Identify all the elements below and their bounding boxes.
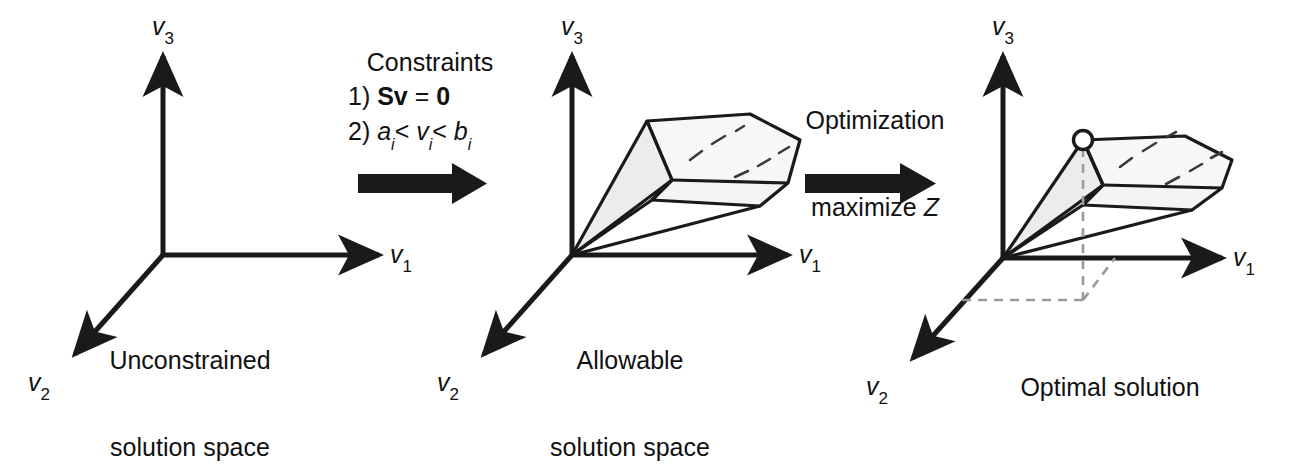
axis-label-v3-panel3: v3	[992, 12, 1014, 46]
constraint-2-flux: v	[416, 117, 429, 145]
transition-title-optimization: Optimization maximize Z	[760, 48, 990, 280]
caption-allowable: Allowable solution space	[490, 288, 770, 465]
axis-label-v2-panel2: v2	[437, 368, 459, 402]
caption-line-1: Allowable	[490, 346, 770, 375]
axis-label-v3-panel1: v3	[152, 12, 174, 46]
constraint-2-sub-v: i	[429, 136, 433, 153]
constraint-2-sub-b: i	[468, 136, 472, 153]
caption-line-2: solution space	[490, 433, 770, 462]
constraint-item-1: 1) Sv = 0	[348, 82, 450, 111]
constraint-2-lower-bound: a	[377, 117, 391, 145]
optimization-line-1: Optimization	[760, 106, 990, 135]
constraint-1-number: 1)	[348, 82, 370, 110]
axis-label-v1-panel1: v1	[390, 240, 412, 274]
caption-optimal: Optimal solution	[985, 315, 1235, 460]
caption-unconstrained: Unconstrained solution space	[40, 288, 340, 465]
constraint-1-matrix: Sv	[377, 82, 408, 110]
constraint-2-lt-1: <	[395, 117, 410, 145]
objective-symbol: Z	[924, 193, 939, 221]
optimization-verb: maximize	[811, 193, 917, 221]
constraint-2-sub-a: i	[391, 136, 395, 153]
constraint-1-equals: =	[415, 82, 430, 110]
transition-arrow-constraints	[358, 163, 487, 204]
caption-line-1: Unconstrained	[40, 346, 340, 375]
optimization-line-2: maximize Z	[760, 193, 990, 222]
transition-title-constraints: Constraints	[330, 48, 530, 77]
constraint-item-2: 2) ai< vi< bi	[348, 117, 471, 151]
axis-label-v3-panel2: v3	[561, 12, 583, 46]
constraint-2-number: 2)	[348, 117, 370, 145]
axis-label-v2-panel3: v2	[866, 372, 888, 406]
optimal-solution-point	[1074, 131, 1093, 150]
constraint-2-lt-2: <	[432, 117, 447, 145]
caption-line-2: solution space	[40, 433, 340, 462]
axis-label-v1-panel3: v1	[1233, 243, 1255, 277]
caption-line-1: Optimal solution	[985, 373, 1235, 402]
constraint-2-upper-bound: b	[454, 117, 468, 145]
constraint-1-zero: 0	[436, 82, 450, 110]
